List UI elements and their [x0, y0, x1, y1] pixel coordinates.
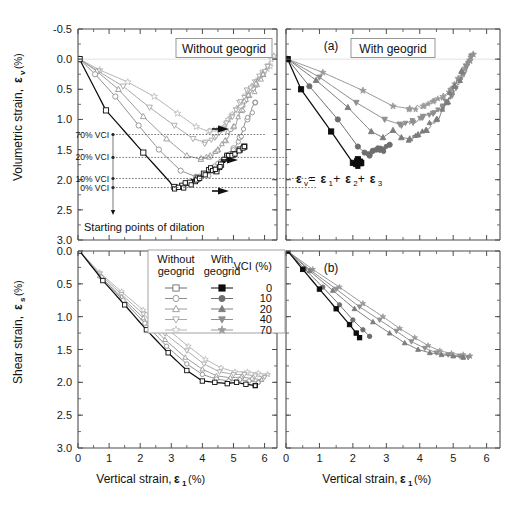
marker-square — [329, 129, 334, 134]
marker-square — [213, 167, 217, 171]
y-axis-title-top-symbol: ε — [11, 77, 25, 83]
marker-square — [183, 181, 187, 185]
x-axis-title-subscript: 1 — [408, 479, 413, 488]
marker-circle — [156, 147, 161, 152]
equation-part: v — [304, 179, 308, 188]
marker-triangle — [200, 367, 205, 371]
marker-down-triangle — [422, 346, 427, 350]
y-tick-label: 1.0 — [57, 311, 72, 323]
marker-square — [166, 351, 170, 355]
marker-square — [173, 285, 179, 291]
x-axis-title-subscript: 1 — [182, 479, 187, 488]
marker-triangle — [427, 120, 432, 124]
marker-circle — [388, 143, 392, 147]
marker-circle — [185, 362, 189, 366]
marker-square — [234, 380, 238, 384]
x-tick-label: 1 — [316, 452, 322, 464]
marker-triangle — [402, 340, 407, 344]
marker-circle — [241, 127, 245, 131]
marker-circle — [381, 149, 385, 153]
marker-triangle — [387, 331, 392, 335]
marker-square — [213, 380, 217, 384]
marker-square — [101, 278, 105, 282]
marker-square — [218, 165, 222, 169]
marker-down-triangle — [394, 329, 399, 333]
equation-part: + — [358, 172, 365, 186]
legend: WithoutgeogridWithgeogridVCI (%)01020407… — [148, 250, 285, 336]
marker-circle — [231, 148, 235, 152]
figure-svg: -0.50.00.51.01.52.02.53.0(a)01234560.00.… — [0, 0, 519, 516]
figure-container: -0.50.00.51.01.52.02.53.0(a)01234560.00.… — [0, 0, 519, 516]
marker-triangle — [252, 89, 257, 93]
curve-line — [288, 251, 464, 357]
equation-part: ε — [296, 172, 302, 186]
x-axis-title-right: Vertical strain,ε1(%) — [322, 472, 431, 488]
x-tick-label: 3 — [383, 452, 389, 464]
panel-letter-label: (a) — [324, 39, 339, 53]
marker-circle — [136, 123, 141, 128]
marker-square — [200, 379, 204, 383]
y-axis-title-bottom-subscript: s — [18, 297, 27, 302]
marker-down-triangle — [202, 142, 207, 146]
marker-down-triangle — [409, 340, 414, 344]
marker-star — [360, 87, 367, 93]
y-tick-label: 3.0 — [57, 442, 72, 454]
marker-circle — [93, 72, 98, 77]
y-axis-title-bottom-unit: (%) — [13, 280, 24, 296]
x-axis-title-unit: (%) — [188, 473, 205, 485]
legend-header-without-line2: geogrid — [158, 265, 195, 277]
curve-line — [288, 56, 472, 126]
marker-down-triangle — [357, 305, 362, 309]
marker-triangle — [236, 115, 241, 119]
marker-square — [103, 108, 108, 113]
marker-down-triangle — [172, 123, 178, 128]
marker-down-triangle — [231, 373, 236, 377]
x-axis-title-unit: (%) — [414, 473, 431, 485]
y-axis-title-top-text: Volumetric strain, — [11, 89, 25, 181]
x-tick-label: 2 — [137, 452, 143, 464]
marker-square — [203, 173, 207, 177]
marker-circle — [250, 111, 254, 115]
y-tick-label: 1.5 — [57, 344, 72, 356]
panel-bottom-right: 0123456(b) — [283, 248, 500, 464]
marker-circle — [351, 318, 355, 322]
x-tick-label: 6 — [262, 452, 268, 464]
marker-square — [182, 186, 186, 190]
marker-square — [122, 303, 126, 307]
marker-square — [359, 161, 363, 165]
marker-star — [413, 107, 418, 112]
y-tick-label: 2.0 — [57, 376, 72, 388]
series-bottom-right-vci70 — [285, 248, 473, 358]
marker-square — [334, 307, 338, 311]
volumetric-strain-equation: εv = ε1 + ε2 + ε3 — [296, 172, 383, 188]
marker-circle — [253, 100, 257, 104]
marker-circle — [173, 295, 179, 301]
marker-square — [219, 285, 225, 291]
marker-square — [358, 336, 362, 340]
marker-triangle — [435, 116, 440, 120]
marker-square — [189, 183, 193, 187]
legend-header-without-line1: Without — [157, 253, 194, 265]
marker-down-triangle — [377, 318, 382, 322]
marker-square — [242, 144, 246, 148]
dilation-arrow-icon — [111, 210, 115, 215]
marker-triangle — [390, 127, 396, 132]
marker-square — [233, 152, 237, 156]
with-geogrid-title-text: With geogrid — [359, 42, 426, 56]
marker-square — [185, 368, 189, 372]
marker-square — [244, 382, 248, 386]
marker-square — [225, 381, 229, 385]
x-tick-label: 5 — [450, 452, 456, 464]
marker-triangle — [416, 347, 421, 351]
marker-triangle — [380, 135, 386, 140]
marker-star — [390, 103, 397, 109]
plot-area-top-right — [284, 51, 476, 169]
marker-circle — [178, 168, 183, 173]
marker-square — [347, 322, 351, 326]
marker-square — [354, 331, 358, 335]
x-tick-label: 2 — [350, 452, 356, 464]
y-tick-label: 0.0 — [57, 53, 72, 65]
x-axis-title-left: Vertical strain,ε1(%) — [96, 472, 205, 488]
marker-square — [301, 267, 305, 271]
y-tick-label: 2.5 — [57, 204, 72, 216]
